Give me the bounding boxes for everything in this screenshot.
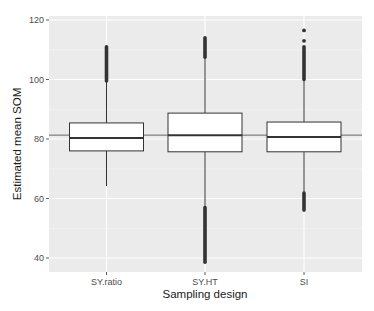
outlier-point (302, 29, 306, 33)
y-tick-label: 120 (29, 15, 44, 25)
boxplot-chart: 406080100120 SY.ratioSY.HTSI Sampling de… (0, 0, 374, 311)
y-axis-title: Estimated mean SOM (11, 88, 23, 200)
x-tick-label: SI (300, 277, 309, 287)
y-axis: 406080100120 (29, 15, 49, 263)
x-tick-label: SY.ratio (91, 277, 122, 287)
interquartile-box (168, 113, 242, 152)
x-axis-title: Sampling design (162, 288, 247, 300)
y-tick-label: 60 (34, 194, 44, 204)
outlier-point (302, 39, 306, 43)
x-axis: SY.ratioSY.HTSI (91, 272, 308, 287)
x-tick-label: SY.HT (192, 277, 218, 287)
y-tick-label: 100 (29, 75, 44, 85)
y-tick-label: 80 (34, 134, 44, 144)
y-tick-label: 40 (34, 253, 44, 263)
interquartile-box (70, 123, 144, 151)
